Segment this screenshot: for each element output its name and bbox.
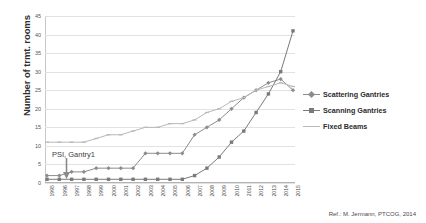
x-axis-tick-label: 2007: [197, 185, 203, 197]
y-axis-tick-label: 30: [35, 69, 41, 75]
x-axis-tick-label: 2011: [246, 185, 252, 196]
data-point: [45, 178, 48, 181]
legend-item-fixed-beams[interactable]: Fixed Beams: [303, 120, 421, 133]
series-scattering-gantries: [45, 77, 295, 178]
x-axis-tick-labels: 1995199619971998199920002001200220032004…: [45, 185, 295, 221]
data-point: [218, 155, 221, 158]
y-axis-tick-label: 20: [35, 106, 41, 112]
y-axis-tick-label: 10: [35, 143, 41, 149]
legend-marker-icon: [303, 122, 320, 131]
annotation-arrow-icon: [62, 158, 71, 180]
x-axis-tick-label: 2009: [221, 185, 227, 197]
legend-item-scanning-gantries[interactable]: Scanning Gantries: [303, 104, 421, 117]
data-point: [95, 178, 98, 181]
data-point: [57, 173, 61, 177]
x-axis-tick-label: 2010: [234, 185, 240, 197]
x-axis-tick-label: 2015: [295, 185, 301, 197]
x-axis-tick-label: 1996: [62, 185, 68, 197]
chart-legend: Scattering GantriesScanning GantriesFixe…: [303, 88, 421, 136]
data-point: [193, 174, 196, 177]
data-point: [131, 178, 134, 181]
x-axis-tick-label: 2014: [283, 185, 289, 197]
data-point: [242, 129, 245, 132]
data-point: [156, 151, 160, 155]
legend-label: Fixed Beams: [323, 122, 367, 131]
data-point: [205, 166, 208, 169]
chart-container: Number of trmt. rooms 051015202530354045…: [0, 0, 426, 223]
data-point: [291, 29, 294, 32]
x-axis-tick-label: 1998: [86, 185, 92, 197]
x-axis-tick-label: 2000: [111, 185, 117, 197]
legend-marker-icon: [303, 90, 320, 99]
data-point: [45, 173, 49, 177]
legend-label: Scanning Gantries: [323, 106, 387, 115]
data-point: [144, 178, 147, 181]
legend-label: Scattering Gantries: [323, 90, 389, 99]
data-point: [58, 178, 61, 181]
annotation-psi-gantry1: PSI, Gantry1: [52, 150, 95, 159]
data-point: [156, 178, 159, 181]
y-axis-tick-label: 5: [38, 161, 41, 167]
y-axis-tick-label: 25: [35, 87, 41, 93]
legend-marker-icon: [303, 106, 320, 115]
data-point: [181, 178, 184, 181]
legend-item-scattering-gantries[interactable]: Scattering Gantries: [303, 88, 421, 101]
data-point: [230, 140, 233, 143]
y-axis-tick-label: 0: [38, 180, 41, 186]
data-point: [107, 178, 110, 181]
y-axis-tick-label: 45: [35, 13, 41, 19]
x-axis-tick-label: 1995: [49, 185, 55, 197]
data-point: [168, 151, 172, 155]
data-point: [82, 178, 85, 181]
x-axis-tick-label: 1999: [98, 185, 104, 197]
data-point: [82, 170, 86, 174]
data-point: [279, 70, 282, 73]
y-axis-title: Number of trmt. rooms: [21, 0, 32, 141]
y-axis-tick-label: 40: [35, 32, 41, 38]
data-point: [267, 92, 270, 95]
y-axis-tick-label: 35: [35, 50, 41, 56]
x-axis-tick-label: 2004: [160, 185, 166, 197]
data-point: [106, 166, 110, 170]
series-line: [47, 79, 293, 175]
x-axis-tick-label: 2001: [123, 185, 129, 197]
x-axis-tick-label: 2003: [148, 185, 154, 197]
x-axis-tick-label: 2002: [135, 185, 141, 197]
data-point: [94, 166, 98, 170]
data-point: [119, 178, 122, 181]
x-axis-tick-label: 2005: [172, 185, 178, 197]
data-point: [254, 111, 257, 114]
x-axis-tick-label: 2013: [271, 185, 277, 197]
data-point: [168, 178, 171, 181]
x-axis-tick-label: 2006: [185, 185, 191, 197]
x-axis-tick-label: 2012: [258, 185, 264, 197]
data-point: [119, 166, 123, 170]
x-axis-tick-label: 2008: [209, 185, 215, 197]
source-reference: Ref.: M. Jermann, PTCOG, 2014: [329, 211, 416, 217]
y-axis-tick-label: 15: [35, 124, 41, 130]
x-axis-tick-label: 1997: [74, 185, 80, 197]
